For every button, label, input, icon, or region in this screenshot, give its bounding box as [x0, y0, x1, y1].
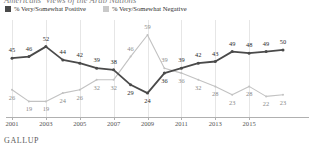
- negative-value-label: 28: [246, 91, 252, 97]
- negative-point: [265, 95, 267, 97]
- negative-value-label: 59: [144, 24, 150, 30]
- chart-legend: % Very/Somewhat Positive % Very/Somewhat…: [5, 6, 187, 13]
- x-axis-label: 2003: [39, 120, 52, 127]
- positive-value-label: 42: [195, 52, 201, 58]
- x-axis-label: 2013: [209, 120, 222, 127]
- positive-value-label: 43: [212, 50, 218, 56]
- positive-point: [180, 67, 183, 70]
- positive-point: [214, 60, 217, 63]
- chart-root: Americans' Views of the Arab Nations % V…: [0, 0, 315, 151]
- plot-area: 2619192426323246593936322823282223454652…: [0, 20, 315, 118]
- positive-value-label: 45: [9, 47, 15, 53]
- positive-value-label: 49: [263, 40, 269, 46]
- x-axis: [6, 117, 309, 118]
- negative-value-label: 26: [9, 95, 15, 101]
- negative-value-label: 36: [178, 78, 184, 84]
- positive-value-label: 39: [93, 57, 99, 63]
- negative-value-label: 39: [161, 57, 167, 63]
- positive-line: [12, 47, 283, 94]
- x-axis-label: 2011: [175, 120, 188, 127]
- positive-point: [146, 92, 149, 95]
- negative-point: [45, 100, 47, 102]
- x-axis-label: 2001: [5, 120, 18, 127]
- x-axis-label: 2015: [243, 120, 256, 127]
- positive-value-label: 52: [43, 35, 49, 41]
- positive-point: [197, 62, 200, 65]
- positive-point: [248, 52, 251, 55]
- negative-point: [11, 89, 13, 91]
- negative-point: [163, 67, 165, 69]
- negative-point: [282, 94, 284, 96]
- negative-value-label: 23: [229, 100, 235, 106]
- negative-point: [130, 56, 132, 58]
- x-axis-label: 2007: [107, 120, 120, 127]
- negative-point: [197, 79, 199, 81]
- x-axis-label: 2009: [141, 120, 154, 127]
- negative-value-label: 32: [93, 85, 99, 91]
- negative-value-label: 19: [43, 106, 49, 112]
- negative-value-label: 22: [263, 101, 269, 107]
- positive-point: [231, 50, 234, 53]
- gallup-brand: GALLUP: [4, 136, 39, 145]
- positive-point: [265, 50, 268, 53]
- negative-point: [214, 85, 216, 87]
- negative-point: [28, 100, 30, 102]
- positive-point: [112, 68, 115, 71]
- positive-value-label: 46: [26, 45, 32, 51]
- positive-value-label: 24: [144, 98, 150, 104]
- positive-value-label: 38: [110, 59, 116, 65]
- positive-point: [95, 67, 98, 70]
- negative-value-label: 28: [212, 91, 218, 97]
- negative-point: [62, 92, 64, 94]
- positive-point: [27, 55, 30, 58]
- negative-value-label: 46: [127, 45, 133, 51]
- negative-line: [12, 35, 283, 101]
- positive-value-label: 44: [60, 49, 66, 55]
- legend-item-positive: % Very/Somewhat Positive: [5, 6, 86, 13]
- negative-point: [231, 94, 233, 96]
- positive-value-label: 39: [178, 57, 184, 63]
- positive-point: [44, 45, 47, 48]
- negative-point: [113, 79, 115, 81]
- positive-value-label: 50: [280, 39, 286, 45]
- positive-value-label: 48: [246, 42, 252, 48]
- negative-value-label: 24: [60, 98, 66, 104]
- positive-point: [11, 57, 14, 60]
- x-axis-label: 2005: [73, 120, 86, 127]
- legend-label-negative: % Very/Somewhat Negative: [112, 6, 187, 13]
- legend-swatch-positive-icon: [5, 6, 11, 12]
- x-axis-labels: 20012003200520072009201120132015: [0, 120, 315, 132]
- negative-point: [96, 79, 98, 81]
- negative-point: [147, 34, 149, 36]
- negative-value-label: 19: [26, 106, 32, 112]
- legend-swatch-negative-icon: [103, 6, 109, 12]
- positive-value-label: 49: [229, 40, 235, 46]
- negative-value-label: 32: [195, 85, 201, 91]
- positive-point: [282, 48, 285, 51]
- negative-value-label: 23: [280, 100, 286, 106]
- negative-point: [180, 72, 182, 74]
- negative-value-label: 26: [77, 95, 83, 101]
- negative-value-label: 32: [110, 85, 116, 91]
- legend-item-negative: % Very/Somewhat Negative: [103, 6, 187, 13]
- positive-value-label: 36: [161, 78, 167, 84]
- positive-point: [78, 62, 81, 65]
- negative-point: [79, 89, 81, 91]
- negative-point: [248, 85, 250, 87]
- positive-point: [129, 83, 132, 86]
- positive-value-label: 29: [127, 90, 133, 96]
- positive-point: [61, 58, 64, 61]
- legend-label-positive: % Very/Somewhat Positive: [14, 6, 86, 13]
- positive-point: [163, 72, 166, 75]
- positive-value-label: 42: [77, 52, 83, 58]
